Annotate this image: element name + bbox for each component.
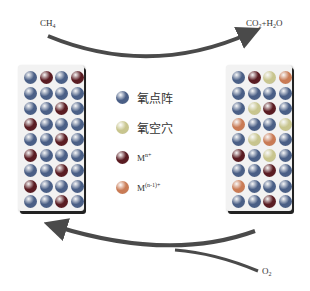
oxygen-lattice-ball bbox=[71, 118, 84, 131]
oxygen-lattice-ball bbox=[248, 164, 261, 177]
metal-n-ball bbox=[55, 164, 68, 177]
oxygen-vacancy-ball bbox=[248, 102, 261, 115]
oxygen-lattice-ball bbox=[263, 180, 276, 193]
oxygen-lattice-ball bbox=[24, 102, 37, 115]
oxygen-lattice-ball bbox=[71, 164, 84, 177]
oxygen-lattice-ball bbox=[263, 87, 276, 100]
oxygen-lattice-ball bbox=[71, 195, 84, 208]
legend-label: 氧点阵 bbox=[137, 89, 173, 106]
metal-n-ball bbox=[24, 118, 37, 131]
metal-n-ball bbox=[40, 71, 53, 84]
metal-n-ball bbox=[55, 102, 68, 115]
oxygen-lattice-ball bbox=[55, 87, 68, 100]
label-co2-h2o: CO2+H2O bbox=[246, 18, 283, 29]
oxygen-lattice-ball bbox=[248, 180, 261, 193]
oxygen-lattice-ball bbox=[71, 180, 84, 193]
oxygen-lattice-ball bbox=[24, 133, 37, 146]
legend-item-oxygen-vacancy: 氧空穴 bbox=[116, 112, 173, 142]
legend-item-metal-n: Mn+ bbox=[116, 142, 173, 172]
metal-n-minus-1-ball bbox=[232, 180, 245, 193]
oxygen-lattice-ball bbox=[40, 133, 53, 146]
metal-n-minus-1-ball bbox=[232, 118, 245, 131]
metal-n-ball bbox=[248, 71, 261, 84]
oxygen-lattice-ball bbox=[40, 149, 53, 162]
oxygen-lattice-ball bbox=[71, 133, 84, 146]
legend: 氧点阵 氧空穴 Mn+ M(n-1)+ bbox=[116, 82, 173, 202]
metal-n-ball-icon bbox=[116, 151, 129, 164]
oxygen-lattice-ball bbox=[279, 164, 292, 177]
oxygen-lattice-ball bbox=[232, 102, 245, 115]
oxygen-vacancy-ball-icon bbox=[116, 121, 129, 134]
label-ch4: CH4 bbox=[40, 18, 56, 29]
oxygen-lattice-ball bbox=[248, 195, 261, 208]
o2-feed-line bbox=[175, 250, 258, 271]
oxygen-lattice-ball bbox=[279, 180, 292, 193]
oxygen-lattice-ball bbox=[24, 195, 37, 208]
metal-n-ball bbox=[263, 164, 276, 177]
oxygen-lattice-ball bbox=[263, 118, 276, 131]
bottom-arrow bbox=[55, 226, 255, 245]
oxygen-lattice-ball bbox=[40, 102, 53, 115]
legend-label: Mn+ bbox=[137, 152, 151, 163]
metal-n-ball bbox=[24, 149, 37, 162]
oxygen-lattice-ball bbox=[40, 164, 53, 177]
oxygen-lattice-ball bbox=[71, 102, 84, 115]
oxygen-lattice-ball bbox=[232, 164, 245, 177]
oxygen-lattice-ball bbox=[55, 118, 68, 131]
oxygen-lattice-ball bbox=[40, 180, 53, 193]
oxygen-lattice-ball bbox=[279, 87, 292, 100]
oxygen-lattice-ball bbox=[55, 71, 68, 84]
oxygen-lattice-ball bbox=[279, 102, 292, 115]
oxygen-vacancy-ball bbox=[263, 71, 276, 84]
metal-n-ball bbox=[24, 180, 37, 193]
oxygen-vacancy-ball bbox=[248, 133, 261, 146]
oxygen-lattice-ball bbox=[248, 87, 261, 100]
oxygen-lattice-ball bbox=[55, 149, 68, 162]
metal-n-ball bbox=[55, 195, 68, 208]
legend-label: 氧空穴 bbox=[137, 119, 173, 136]
right-lattice-grid bbox=[232, 71, 293, 209]
oxygen-lattice-ball bbox=[279, 133, 292, 146]
oxygen-vacancy-ball bbox=[279, 118, 292, 131]
oxygen-lattice-ball bbox=[71, 149, 84, 162]
left-lattice-panel bbox=[18, 65, 84, 211]
oxygen-vacancy-ball bbox=[263, 149, 276, 162]
right-lattice-panel bbox=[226, 65, 292, 211]
metal-n-minus-1-ball-icon bbox=[116, 181, 129, 194]
oxygen-lattice-ball bbox=[24, 164, 37, 177]
oxygen-lattice-ball bbox=[40, 118, 53, 131]
oxygen-lattice-ball bbox=[40, 87, 53, 100]
oxygen-lattice-ball bbox=[40, 195, 53, 208]
metal-n-ball bbox=[55, 133, 68, 146]
oxygen-lattice-ball bbox=[71, 87, 84, 100]
metal-n-ball bbox=[263, 195, 276, 208]
oxygen-lattice-ball bbox=[24, 71, 37, 84]
label-o2: O2 bbox=[262, 266, 272, 277]
legend-item-oxygen-lattice: 氧点阵 bbox=[116, 82, 173, 112]
top-arrow bbox=[48, 33, 250, 56]
metal-n-minus-1-ball bbox=[279, 71, 292, 84]
oxygen-lattice-ball bbox=[248, 118, 261, 131]
legend-label: M(n-1)+ bbox=[137, 182, 160, 193]
oxygen-lattice-ball bbox=[279, 195, 292, 208]
metal-n-ball bbox=[71, 71, 84, 84]
oxygen-lattice-ball bbox=[232, 71, 245, 84]
oxygen-lattice-ball bbox=[279, 149, 292, 162]
oxygen-lattice-ball bbox=[232, 87, 245, 100]
metal-n-ball bbox=[232, 149, 245, 162]
oxygen-lattice-ball bbox=[24, 87, 37, 100]
left-lattice-grid bbox=[24, 71, 85, 209]
oxygen-lattice-ball bbox=[232, 195, 245, 208]
metal-n-ball bbox=[263, 102, 276, 115]
legend-item-metal-n-minus-1: M(n-1)+ bbox=[116, 172, 173, 202]
oxygen-lattice-ball bbox=[248, 149, 261, 162]
oxygen-lattice-ball bbox=[232, 133, 245, 146]
oxygen-lattice-ball bbox=[55, 180, 68, 193]
metal-n-minus-1-ball bbox=[263, 133, 276, 146]
oxygen-lattice-ball-icon bbox=[116, 91, 129, 104]
